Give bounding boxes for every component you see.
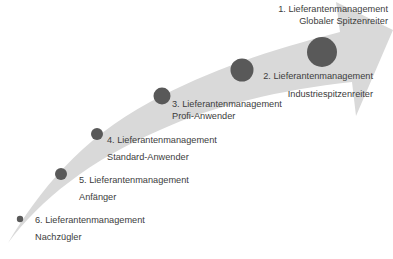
level-2-subtitle: Industriespitzenreiter [253, 88, 373, 100]
level-4-label: 4. Lieferantenmanagement Standard-Anwend… [107, 134, 217, 163]
level-6-subtitle: Nachzügler [35, 231, 145, 243]
level-4-title: 4. Lieferantenmanagement [107, 134, 217, 146]
level-5-subtitle: Anfänger [79, 191, 189, 203]
level-4-dot [91, 128, 103, 140]
level-2-dot [231, 59, 254, 82]
level-3-dot [154, 88, 171, 105]
level-4-subtitle: Standard-Anwender [107, 151, 217, 163]
level-5-label: 5. Lieferantenmanagement Anfänger [79, 174, 189, 203]
level-3-subtitle: Profi-Anwender [172, 110, 282, 122]
level-6-label: 6. Lieferantenmanagement Nachzügler [35, 214, 145, 243]
level-6-dot [17, 216, 23, 222]
curved-arrow-shape [8, 2, 393, 243]
level-2-label: 2. Lieferantenmanagement Industriespitze… [253, 70, 373, 100]
level-1-label: 1. Lieferantenmanagement Globaler Spitze… [250, 3, 388, 27]
level-2-title: 2. Lieferantenmanagement [253, 70, 373, 82]
level-1-dot [307, 37, 337, 67]
level-1-title: 1. Lieferantenmanagement [250, 3, 388, 15]
level-5-dot [55, 168, 67, 180]
level-1-subtitle: Globaler Spitzenreiter [250, 15, 388, 27]
level-3-label: 3. Lieferantenmanagement Profi-Anwender [172, 98, 282, 122]
level-5-title: 5. Lieferantenmanagement [79, 174, 189, 186]
level-6-title: 6. Lieferantenmanagement [35, 214, 145, 226]
